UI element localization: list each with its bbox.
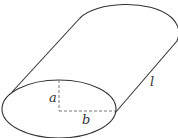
label-a: a [49, 90, 57, 105]
elliptic-cylinder-diagram: a b l [0, 0, 178, 138]
right-generator-line [115, 41, 177, 113]
label-b: b [82, 112, 90, 127]
label-l: l [150, 74, 154, 89]
front-ellipse [2, 80, 116, 138]
back-ellipse-arc [80, 4, 178, 41]
